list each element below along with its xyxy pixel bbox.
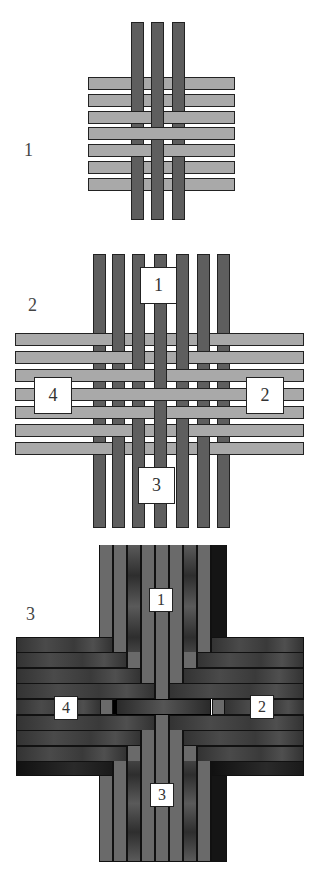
vertical-strip-over — [172, 93, 185, 108]
finished-vertical-strip — [183, 746, 197, 862]
vertical-strip-over — [172, 76, 185, 91]
step-3-tag-3: 3 — [150, 783, 174, 807]
vertical-strip-over — [176, 332, 189, 347]
finished-vertical-strip — [127, 746, 141, 862]
vertical-strip-over — [172, 177, 185, 192]
finished-vertical-strip — [197, 545, 211, 652]
finished-horizontal-strip — [211, 637, 304, 653]
finished-vertical-strip — [113, 761, 127, 776]
vertical-strip-over — [176, 441, 189, 456]
finished-vertical-strip — [113, 761, 127, 862]
finished-vertical-strip — [211, 776, 227, 862]
vertical-strip-over — [172, 160, 185, 175]
finished-horizontal-strip — [211, 761, 304, 776]
finished-center-square — [100, 699, 113, 715]
vertical-strip-over — [154, 332, 167, 347]
vertical-strip-over — [197, 332, 210, 347]
finished-horizontal-strip — [183, 668, 304, 684]
vertical-strip-over — [154, 405, 167, 420]
finished-vertical-strip — [155, 545, 169, 699]
step-1-label: 1 — [24, 140, 33, 161]
finished-horizontal-strip — [16, 746, 127, 762]
finished-vertical-strip — [183, 746, 197, 761]
finished-vertical-strip — [127, 746, 141, 761]
finished-vertical-strip — [169, 545, 183, 683]
vertical-strip-over — [131, 177, 144, 192]
finished-vertical-strip — [211, 545, 227, 637]
finished-horizontal-strip — [16, 668, 141, 684]
finished-horizontal-strip — [197, 746, 304, 762]
finished-horizontal-strip — [16, 652, 127, 668]
vertical-strip-over — [151, 160, 164, 175]
finished-center-bar — [116, 699, 211, 715]
finished-vertical-strip — [99, 545, 113, 637]
vertical-strip-over — [154, 368, 167, 383]
vertical-strip-over — [197, 441, 210, 456]
vertical-strip-over — [151, 93, 164, 108]
step-2-tag-1: 1 — [140, 267, 177, 304]
finished-horizontal-strip — [169, 683, 304, 699]
vertical-strip-over — [151, 143, 164, 158]
finished-horizontal-strip — [16, 683, 155, 699]
finished-center-square — [212, 699, 225, 715]
step-3-tag-1: 1 — [149, 588, 173, 612]
finished-horizontal-strip — [16, 730, 141, 746]
step-3-tag-2: 2 — [250, 695, 274, 719]
vertical-strip-over — [131, 76, 144, 91]
finished-vertical-strip — [141, 545, 155, 683]
vertical-strip-over — [112, 332, 125, 347]
finished-horizontal-strip — [197, 652, 304, 668]
finished-horizontal-strip — [169, 715, 304, 731]
finished-vertical-strip — [183, 652, 197, 668]
step-3-label: 3 — [26, 604, 35, 625]
horizontal-strip — [88, 127, 235, 140]
finished-vertical-strip — [155, 683, 169, 699]
finished-vertical-strip — [197, 761, 211, 776]
finished-vertical-strip — [197, 637, 211, 652]
vertical-strip-over — [132, 350, 145, 365]
finished-vertical-strip — [127, 545, 141, 668]
vertical-strip-over — [154, 441, 167, 456]
finished-vertical-strip — [155, 715, 169, 730]
vertical-strip-over — [154, 423, 167, 438]
vertical-strip-over — [131, 160, 144, 175]
finished-vertical-strip — [127, 652, 141, 668]
vertical-strip-over — [176, 423, 189, 438]
finished-vertical-strip — [99, 776, 113, 862]
vertical-strip-over — [154, 350, 167, 365]
finished-vertical-strip — [113, 545, 127, 652]
vertical-strip-over — [132, 332, 145, 347]
finished-vertical-strip — [169, 730, 183, 746]
finished-vertical-strip — [113, 637, 127, 652]
finished-horizontal-strip — [183, 730, 304, 746]
vertical-strip-over — [151, 76, 164, 91]
vertical-strip-over — [151, 110, 164, 125]
finished-horizontal-strip — [16, 637, 113, 653]
step-2-tag-3: 3 — [138, 467, 175, 504]
vertical-strip-over — [131, 93, 144, 108]
vertical-strip-over — [151, 177, 164, 192]
vertical-strip-over — [132, 423, 145, 438]
finished-vertical-strip — [183, 545, 197, 668]
finished-vertical-strip — [141, 668, 155, 683]
finished-vertical-strip — [169, 668, 183, 683]
finished-vertical-strip — [141, 730, 155, 746]
vertical-strip-over — [112, 441, 125, 456]
step-3-tag-4: 4 — [54, 696, 78, 720]
finished-horizontal-strip — [16, 761, 113, 776]
finished-horizontal-strip — [16, 715, 155, 731]
step-2-tag-2: 2 — [246, 377, 284, 414]
step-2-tag-4: 4 — [34, 377, 72, 414]
vertical-strip-over — [176, 350, 189, 365]
step-2-label: 2 — [28, 295, 37, 316]
vertical-strip-over — [132, 441, 145, 456]
finished-vertical-strip — [197, 761, 211, 862]
